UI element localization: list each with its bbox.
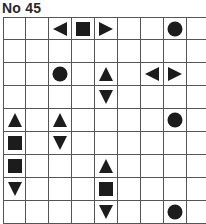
grid-cell-r8-c0[interactable] bbox=[3, 201, 26, 224]
triangle-down-icon bbox=[99, 205, 113, 219]
triangle-up-icon bbox=[99, 159, 113, 173]
grid-cell-r6-c2[interactable] bbox=[49, 155, 72, 178]
triangle-down-icon bbox=[8, 182, 22, 196]
grid-cell-r4-c0[interactable] bbox=[3, 109, 26, 132]
grid-cell-r3-c1[interactable] bbox=[26, 86, 49, 109]
grid-cell-r0-c8[interactable] bbox=[187, 17, 206, 40]
grid-cell-r5-c2[interactable] bbox=[49, 132, 72, 155]
grid-cell-r1-c5[interactable] bbox=[118, 40, 141, 63]
grid-cell-r8-c6[interactable] bbox=[141, 201, 164, 224]
grid-cell-r3-c2[interactable] bbox=[49, 86, 72, 109]
triangle-right-icon bbox=[99, 22, 113, 36]
grid-cell-r1-c4[interactable] bbox=[95, 40, 118, 63]
grid-cell-r6-c4[interactable] bbox=[95, 155, 118, 178]
square-icon bbox=[8, 159, 22, 173]
grid-cell-r4-c4[interactable] bbox=[95, 109, 118, 132]
grid-cell-r7-c3[interactable] bbox=[72, 178, 95, 201]
circle-icon bbox=[168, 21, 183, 36]
grid-cell-r4-c7[interactable] bbox=[164, 109, 187, 132]
grid-cell-r8-c5[interactable] bbox=[118, 201, 141, 224]
triangle-left-icon bbox=[145, 67, 159, 81]
grid-cell-r7-c5[interactable] bbox=[118, 178, 141, 201]
grid-cell-r3-c0[interactable] bbox=[3, 86, 26, 109]
grid-cell-r0-c6[interactable] bbox=[141, 17, 164, 40]
grid-cell-r3-c6[interactable] bbox=[141, 86, 164, 109]
puzzle-title: No 45 bbox=[2, 0, 41, 16]
grid-cell-r1-c1[interactable] bbox=[26, 40, 49, 63]
grid-cell-r5-c1[interactable] bbox=[26, 132, 49, 155]
grid-cell-r1-c0[interactable] bbox=[3, 40, 26, 63]
grid-cell-r7-c0[interactable] bbox=[3, 178, 26, 201]
grid-cell-r8-c3[interactable] bbox=[72, 201, 95, 224]
triangle-left-icon bbox=[53, 22, 67, 36]
grid-cell-r4-c6[interactable] bbox=[141, 109, 164, 132]
grid-cell-r2-c5[interactable] bbox=[118, 63, 141, 86]
grid-cell-r6-c5[interactable] bbox=[118, 155, 141, 178]
square-icon bbox=[8, 136, 22, 150]
triangle-up-icon bbox=[8, 113, 22, 127]
grid-cell-r3-c4[interactable] bbox=[95, 86, 118, 109]
grid-cell-r3-c3[interactable] bbox=[72, 86, 95, 109]
grid-cell-r8-c2[interactable] bbox=[49, 201, 72, 224]
grid-cell-r8-c4[interactable] bbox=[95, 201, 118, 224]
grid-cell-r7-c8[interactable] bbox=[187, 178, 206, 201]
grid-cell-r1-c2[interactable] bbox=[49, 40, 72, 63]
grid-cell-r0-c2[interactable] bbox=[49, 17, 72, 40]
grid-cell-r1-c6[interactable] bbox=[141, 40, 164, 63]
grid-cell-r2-c7[interactable] bbox=[164, 63, 187, 86]
grid-cell-r2-c8[interactable] bbox=[187, 63, 206, 86]
grid-cell-r8-c7[interactable] bbox=[164, 201, 187, 224]
grid-cell-r3-c8[interactable] bbox=[187, 86, 206, 109]
grid-cell-r3-c5[interactable] bbox=[118, 86, 141, 109]
grid-cell-r4-c1[interactable] bbox=[26, 109, 49, 132]
grid-cell-r0-c0[interactable] bbox=[3, 17, 26, 40]
grid-cell-r2-c1[interactable] bbox=[26, 63, 49, 86]
grid-cell-r3-c7[interactable] bbox=[164, 86, 187, 109]
grid-cell-r1-c8[interactable] bbox=[187, 40, 206, 63]
grid-cell-r7-c7[interactable] bbox=[164, 178, 187, 201]
circle-icon bbox=[168, 113, 183, 128]
grid-cell-r0-c7[interactable] bbox=[164, 17, 187, 40]
grid-cell-r5-c5[interactable] bbox=[118, 132, 141, 155]
grid-cell-r6-c3[interactable] bbox=[72, 155, 95, 178]
grid-cell-r0-c3[interactable] bbox=[72, 17, 95, 40]
grid-cell-r1-c3[interactable] bbox=[72, 40, 95, 63]
grid-cell-r4-c8[interactable] bbox=[187, 109, 206, 132]
grid-cell-r7-c2[interactable] bbox=[49, 178, 72, 201]
grid-cell-r5-c3[interactable] bbox=[72, 132, 95, 155]
grid-cell-r4-c3[interactable] bbox=[72, 109, 95, 132]
triangle-down-icon bbox=[53, 136, 67, 150]
grid-cell-r7-c1[interactable] bbox=[26, 178, 49, 201]
grid-cell-r8-c1[interactable] bbox=[26, 201, 49, 224]
grid-cell-r0-c4[interactable] bbox=[95, 17, 118, 40]
grid-cell-r2-c3[interactable] bbox=[72, 63, 95, 86]
grid-cell-r5-c7[interactable] bbox=[164, 132, 187, 155]
grid-cell-r0-c5[interactable] bbox=[118, 17, 141, 40]
grid-cell-r8-c8[interactable] bbox=[187, 201, 206, 224]
grid-cell-r4-c5[interactable] bbox=[118, 109, 141, 132]
grid-cell-r7-c6[interactable] bbox=[141, 178, 164, 201]
grid-cell-r7-c4[interactable] bbox=[95, 178, 118, 201]
grid-cell-r2-c4[interactable] bbox=[95, 63, 118, 86]
grid-cell-r0-c1[interactable] bbox=[26, 17, 49, 40]
triangle-down-icon bbox=[99, 90, 113, 104]
square-icon bbox=[76, 22, 90, 36]
grid-cell-r6-c6[interactable] bbox=[141, 155, 164, 178]
triangle-up-icon bbox=[53, 113, 67, 127]
grid-cell-r2-c0[interactable] bbox=[3, 63, 26, 86]
grid-cell-r6-c0[interactable] bbox=[3, 155, 26, 178]
grid-cell-r4-c2[interactable] bbox=[49, 109, 72, 132]
square-icon bbox=[99, 182, 113, 196]
grid-cell-r6-c7[interactable] bbox=[164, 155, 187, 178]
triangle-up-icon bbox=[99, 67, 113, 81]
grid-cell-r5-c0[interactable] bbox=[3, 132, 26, 155]
grid-cell-r1-c7[interactable] bbox=[164, 40, 187, 63]
triangle-right-icon bbox=[168, 67, 182, 81]
grid-cell-r5-c8[interactable] bbox=[187, 132, 206, 155]
grid-cell-r2-c2[interactable] bbox=[49, 63, 72, 86]
grid-cell-r2-c6[interactable] bbox=[141, 63, 164, 86]
grid-cell-r6-c8[interactable] bbox=[187, 155, 206, 178]
grid-cell-r5-c6[interactable] bbox=[141, 132, 164, 155]
grid-cell-r5-c4[interactable] bbox=[95, 132, 118, 155]
grid-cell-r6-c1[interactable] bbox=[26, 155, 49, 178]
